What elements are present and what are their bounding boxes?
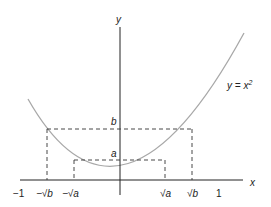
x-axis-label: x [249, 177, 256, 188]
curve-label: y = x2 [226, 79, 252, 91]
y-tick-b: b [111, 116, 117, 127]
y-axis-label: y [115, 14, 122, 25]
x-tick-sqrt-b: √b [187, 188, 198, 199]
x-tick-neg-sqrt-b: −√b [36, 188, 53, 199]
y-tick-a: a [111, 148, 117, 159]
parabola-curve [28, 33, 244, 166]
x-tick-neg-sqrt-a: −√a [62, 188, 79, 199]
x-tick-neg-1: −1 [13, 188, 25, 199]
x-tick-1: 1 [216, 188, 222, 199]
parabola-diagram: y x y = x2 b a −1 −√b −√a √a √b 1 [0, 0, 271, 207]
x-tick-sqrt-a: √a [160, 188, 171, 199]
